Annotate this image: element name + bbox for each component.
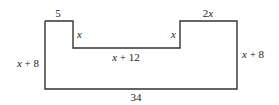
- label-notch-bottom: x + 12: [111, 51, 140, 63]
- label-right-side: x + 8: [241, 48, 265, 60]
- label-top-left: 5: [55, 7, 61, 19]
- label-right-notch-side: x: [170, 28, 176, 40]
- label-bottom: 34: [131, 91, 143, 103]
- label-top-right: 2x: [203, 7, 214, 19]
- label-left-side: x + 8: [16, 57, 40, 69]
- shape-diagram: 5 x x + 8 x + 12 x 2x x + 8 34: [0, 0, 279, 105]
- label-left-notch-side: x: [76, 28, 82, 40]
- shape-outline: [45, 21, 237, 89]
